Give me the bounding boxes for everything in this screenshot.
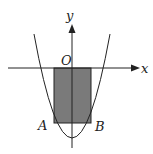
y-axis-arrow-icon xyxy=(69,24,76,33)
y-axis-label: y xyxy=(65,8,74,23)
point-b-label: B xyxy=(94,119,105,134)
x-axis-label: x xyxy=(141,61,149,76)
origin-label: O xyxy=(61,53,72,68)
x-axis-arrow-icon xyxy=(131,65,140,72)
coordinate-diagram: y x O A B xyxy=(0,0,153,154)
point-a-label: A xyxy=(37,118,47,133)
